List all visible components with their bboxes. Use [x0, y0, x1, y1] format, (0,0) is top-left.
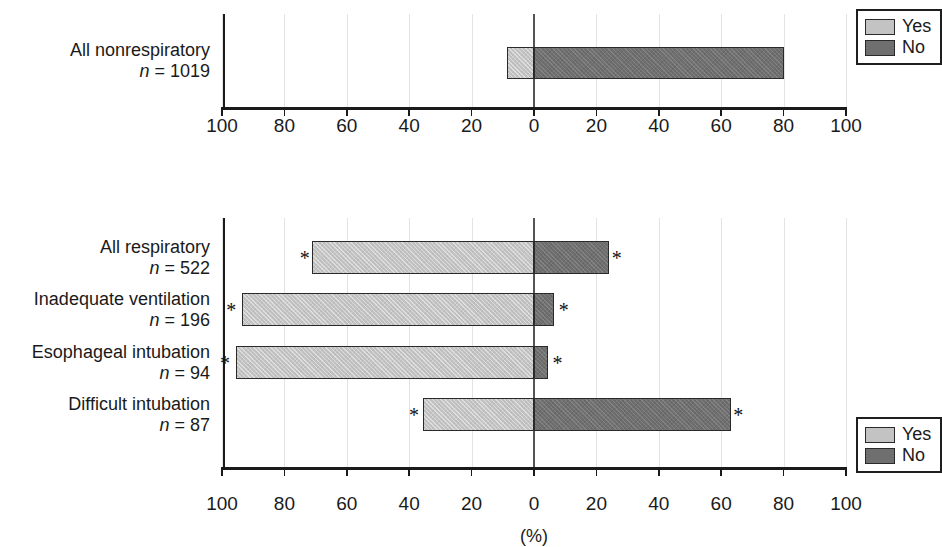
gridline	[222, 14, 223, 107]
axis-tick	[533, 467, 535, 476]
axis-tick	[408, 467, 410, 476]
bar-segment-yes	[312, 241, 534, 274]
x-tick-label: 80	[773, 115, 794, 137]
n-equals: =	[149, 61, 170, 81]
legend-swatch-yes-icon	[865, 19, 895, 35]
axis-tick	[596, 467, 598, 476]
axis-tick	[783, 467, 785, 476]
plot-area-top	[222, 14, 846, 110]
x-axis-ticklabels-bottom: 10080604020020406080100	[222, 493, 846, 517]
x-tick-label: 40	[648, 115, 669, 137]
x-tick-label: 20	[586, 493, 607, 515]
x-tick-label: 20	[461, 115, 482, 137]
category-name: Difficult intubation	[0, 394, 210, 415]
n-symbol: n	[159, 363, 169, 383]
category-name: All nonrespiratory	[0, 40, 210, 61]
gridline	[472, 14, 473, 107]
gridline	[846, 218, 847, 467]
significance-star-icon: *	[409, 405, 419, 425]
x-tick-label: 60	[336, 493, 357, 515]
x-tick-label: 80	[274, 115, 295, 137]
gridline	[284, 14, 285, 107]
category-sample-size: n = 94	[0, 363, 210, 384]
category-sample-size: n = 522	[0, 258, 210, 279]
category-label-all-nonrespiratory: All nonrespiratory n = 1019	[0, 40, 210, 82]
axis-tick	[845, 467, 847, 476]
x-tick-label: 20	[586, 115, 607, 137]
category-name: Esophageal intubation	[0, 342, 210, 363]
bar-segment-yes	[507, 47, 534, 79]
significance-star-icon: *	[552, 353, 562, 373]
gridline	[222, 218, 223, 467]
x-tick-label: 60	[711, 493, 732, 515]
gridline	[784, 218, 785, 467]
significance-star-icon: *	[220, 353, 230, 373]
gridline	[284, 218, 285, 467]
category-label-all-respiratory: All respiratoryn = 522	[0, 237, 210, 279]
chart-panel-respiratory: All respiratoryn = 522Inadequate ventila…	[0, 196, 922, 537]
bar-segment-yes	[423, 398, 534, 431]
x-tick-label: 80	[773, 493, 794, 515]
n-symbol: n	[139, 61, 149, 81]
bar-segment-no	[534, 241, 609, 274]
significance-star-icon: *	[559, 300, 569, 320]
legend-swatch-no-icon	[865, 448, 895, 464]
significance-star-icon: *	[612, 248, 622, 268]
axis-tick	[284, 467, 286, 476]
axis-tick	[658, 467, 660, 476]
x-tick-label: 20	[461, 493, 482, 515]
bar-segment-no	[534, 293, 554, 326]
axis-tick	[221, 467, 223, 476]
legend-label-no: No	[902, 37, 925, 58]
gridline	[347, 14, 348, 107]
x-tick-label: 100	[830, 115, 862, 137]
gridline	[784, 14, 785, 107]
legend-top: Yes No	[856, 9, 942, 65]
bar-segment-no	[534, 398, 731, 431]
x-axis-ticklabels-top: 10080604020020406080100	[222, 115, 846, 139]
n-symbol: n	[149, 310, 159, 330]
axis-tick	[720, 467, 722, 476]
x-tick-label: 40	[648, 493, 669, 515]
bar-segment-yes	[242, 293, 534, 326]
category-name: All respiratory	[0, 237, 210, 258]
category-sample-size: n = 1019	[0, 61, 210, 82]
axis-tick	[346, 467, 348, 476]
x-tick-label: 0	[529, 115, 540, 137]
legend-row-yes-top: Yes	[865, 16, 934, 37]
category-label-esophageal-intubation: Esophageal intubationn = 94	[0, 342, 210, 384]
bar-segment-no	[534, 346, 548, 379]
legend-swatch-yes-icon	[865, 427, 895, 443]
n-symbol: n	[149, 258, 159, 278]
chart-panel-nonrespiratory: All nonrespiratory n = 1019 100806040200…	[0, 0, 922, 160]
gridline	[846, 14, 847, 107]
legend-label-yes: Yes	[902, 16, 931, 37]
n-value: 1019	[170, 61, 210, 81]
bar-segment-yes	[236, 346, 534, 379]
x-tick-label: 100	[830, 493, 862, 515]
significance-star-icon: *	[733, 405, 743, 425]
x-axis-title: (%)	[222, 526, 846, 547]
x-tick-label: 100	[206, 115, 238, 137]
legend-label-no: No	[902, 445, 925, 466]
x-tick-label: 60	[711, 115, 732, 137]
category-name: Inadequate ventilation	[0, 289, 210, 310]
x-tick-label: 80	[274, 493, 295, 515]
legend-row-no-top: No	[865, 37, 934, 58]
axis-tick	[471, 467, 473, 476]
category-label-difficult-intubation: Difficult intubationn = 87	[0, 394, 210, 436]
significance-star-icon: *	[300, 248, 310, 268]
legend-swatch-no-icon	[865, 40, 895, 56]
x-tick-label: 0	[529, 493, 540, 515]
x-tick-label: 40	[399, 115, 420, 137]
legend-bottom: Yes No	[856, 417, 942, 473]
legend-row-no-bottom: No	[865, 445, 934, 466]
n-symbol: n	[159, 415, 169, 435]
significance-star-icon: *	[226, 300, 236, 320]
gridline	[409, 14, 410, 107]
bar-segment-no	[534, 47, 784, 79]
category-sample-size: n = 196	[0, 310, 210, 331]
x-tick-label: 40	[399, 493, 420, 515]
legend-label-yes: Yes	[902, 424, 931, 445]
